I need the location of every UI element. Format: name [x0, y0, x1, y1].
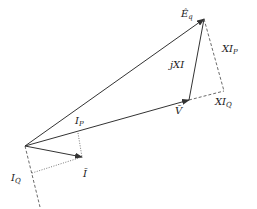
v-phasor [25, 100, 189, 146]
iq-label: IQ [10, 172, 21, 185]
ip-dotted-projection [78, 133, 82, 157]
i-phasor [25, 146, 82, 157]
xip-dashed-line [204, 19, 224, 91]
v-label: V̄ [175, 105, 184, 116]
jxi-phasor [189, 19, 204, 100]
ip-label: IP [74, 115, 84, 128]
eq-phasor [25, 19, 204, 146]
xip-label: XIP [221, 43, 238, 56]
iq-dotted-projection [32, 157, 82, 173]
phasor-diagram: Êq jXI XIP V̄ XIQ IP IQ Ī [0, 0, 257, 209]
eq-label: Êq [180, 8, 193, 21]
jxi-label: jXI [168, 59, 185, 70]
iq-dashed-axis [25, 146, 40, 207]
i-label: Ī [82, 168, 88, 179]
xiq-label: XIQ [214, 96, 232, 109]
